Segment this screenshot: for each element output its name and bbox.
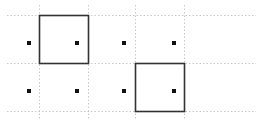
dot-marker xyxy=(27,41,31,45)
dot-marker xyxy=(172,89,176,93)
box-1 xyxy=(40,16,89,64)
dot-marker xyxy=(122,89,126,93)
grid-diagram xyxy=(0,0,257,120)
dot-marker xyxy=(122,41,126,45)
dotted-grid xyxy=(7,5,256,120)
dot-marker xyxy=(75,89,79,93)
box-2 xyxy=(136,64,185,112)
dot-marker xyxy=(27,89,31,93)
dot-marker xyxy=(172,41,176,45)
dot-marker xyxy=(75,41,79,45)
dots xyxy=(27,41,176,93)
